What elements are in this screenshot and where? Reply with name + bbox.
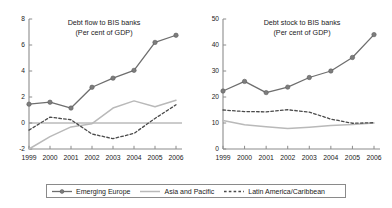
- x-tick-label: 2002: [280, 154, 295, 161]
- x-tick-label: 2000: [237, 154, 252, 161]
- y-tick-label: 6: [21, 41, 25, 48]
- legend-label-asia-and-pacific: Asia and Pacific: [164, 188, 214, 195]
- chart-svg-left: Debt flow to BIS banks (Per cent of GDP)…: [0, 0, 196, 176]
- chart-legend: Emerging Europe Asia and Pacific Latin A…: [46, 184, 346, 198]
- series-line-latin-america-caribbean: [223, 110, 374, 124]
- chart-right-axes: 0102030405019992000200120022003200420052…: [212, 15, 382, 161]
- x-tick-label: 2000: [42, 154, 57, 161]
- legend-swatch-latin-america-caribbean: [223, 187, 245, 196]
- series-line-emerging-europe: [29, 35, 176, 108]
- data-point-emerging-europe: [329, 69, 333, 73]
- x-tick-label: 2002: [84, 154, 99, 161]
- chart-svg-right: Debt stock to BIS banks (Per cent of GDP…: [196, 0, 392, 176]
- chart-right-title: Debt stock to BIS banks: [264, 18, 341, 27]
- chart-panel-debt-stock: Debt stock to BIS banks (Per cent of GDP…: [196, 0, 392, 176]
- x-tick-label: 2001: [259, 154, 274, 161]
- y-tick-label: 10: [212, 119, 220, 126]
- legend-entry-emerging-europe: Emerging Europe: [51, 185, 130, 197]
- x-tick-label: 2004: [126, 154, 141, 161]
- chart-right-titles: Debt stock to BIS banks (Per cent of GDP…: [264, 18, 341, 37]
- chart-left-titles: Debt flow to BIS banks (Per cent of GDP): [68, 18, 141, 37]
- legend-swatch-asia-and-pacific: [139, 187, 161, 196]
- chart-panel-debt-flow: Debt flow to BIS banks (Per cent of GDP)…: [0, 0, 196, 176]
- y-tick-label: 0: [21, 119, 25, 126]
- data-point-emerging-europe: [372, 32, 376, 36]
- legend-entry-asia-and-pacific: Asia and Pacific: [139, 185, 214, 197]
- series-line-emerging-europe: [223, 35, 374, 93]
- y-tick-label: 20: [212, 93, 220, 100]
- data-point-emerging-europe: [221, 89, 225, 93]
- data-point-emerging-europe: [111, 76, 115, 80]
- x-tick-label: 1999: [215, 154, 230, 161]
- chart-right-series: [221, 32, 376, 128]
- chart-left-axes: -20246819992000200120022003200420052006: [19, 15, 184, 161]
- y-tick-label: 4: [21, 67, 25, 74]
- legend-label-emerging-europe: Emerging Europe: [76, 188, 130, 195]
- data-point-emerging-europe: [90, 85, 94, 89]
- y-tick-label: 0: [215, 145, 219, 152]
- x-tick-label: 2003: [302, 154, 317, 161]
- x-tick-label: 2001: [63, 154, 78, 161]
- data-point-emerging-europe: [132, 68, 136, 72]
- data-point-emerging-europe: [69, 106, 73, 110]
- chart-right-subtitle: (Per cent of GDP): [273, 28, 330, 37]
- data-point-emerging-europe: [286, 85, 290, 89]
- x-tick-label: 2005: [147, 154, 162, 161]
- chart-left-subtitle: (Per cent of GDP): [75, 28, 132, 37]
- x-tick-label: 1999: [21, 154, 36, 161]
- x-tick-label: 2006: [168, 154, 183, 161]
- data-point-emerging-europe: [264, 90, 268, 94]
- y-tick-label: 8: [21, 15, 25, 22]
- legend-entry-latin-america-caribbean: Latin America/Caribbean: [223, 185, 325, 197]
- data-point-emerging-europe: [48, 100, 52, 104]
- data-point-emerging-europe: [242, 79, 246, 83]
- data-point-emerging-europe: [307, 75, 311, 79]
- figure-root: Debt flow to BIS banks (Per cent of GDP)…: [0, 0, 392, 208]
- data-point-emerging-europe: [174, 33, 178, 37]
- x-tick-label: 2006: [366, 154, 381, 161]
- y-tick-label: 40: [212, 41, 220, 48]
- data-point-emerging-europe: [27, 102, 31, 106]
- data-point-emerging-europe: [153, 40, 157, 44]
- x-tick-label: 2003: [105, 154, 120, 161]
- data-point-emerging-europe: [350, 55, 354, 59]
- chart-left-series: [27, 33, 178, 149]
- x-tick-label: 2004: [323, 154, 338, 161]
- y-tick-label: 50: [212, 15, 220, 22]
- legend-swatch-emerging-europe: [51, 187, 73, 196]
- legend-label-latin-america-caribbean: Latin America/Caribbean: [248, 188, 325, 195]
- chart-left-title: Debt flow to BIS banks: [68, 18, 141, 27]
- series-line-latin-america-caribbean: [29, 105, 176, 139]
- y-tick-label: 2: [21, 93, 25, 100]
- series-line-asia-and-pacific: [223, 120, 374, 128]
- y-tick-label: 30: [212, 67, 220, 74]
- x-tick-label: 2005: [345, 154, 360, 161]
- series-line-asia-and-pacific: [29, 100, 176, 149]
- y-tick-label: -2: [19, 145, 25, 152]
